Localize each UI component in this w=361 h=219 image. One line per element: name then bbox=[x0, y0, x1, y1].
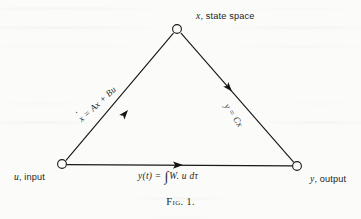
figure-caption: Fig. 1. bbox=[0, 196, 361, 207]
transfer-equation-lhs: y(t) = bbox=[138, 171, 164, 181]
edge-state-to-output bbox=[181, 33, 293, 161]
node-label-input: u, input bbox=[14, 172, 45, 182]
triangle-diagram bbox=[0, 0, 361, 219]
figure-caption-number: 1. bbox=[187, 196, 195, 207]
figure-caption-prefix: Fig. bbox=[166, 196, 183, 207]
arrowhead-input-to-state bbox=[119, 108, 130, 120]
edge-input-to-state bbox=[66, 33, 173, 160]
node-state-space bbox=[173, 25, 182, 34]
node-output bbox=[293, 162, 302, 171]
node-text-output: , output bbox=[314, 174, 346, 184]
transfer-equation-integrand: W. u dτ bbox=[169, 171, 198, 181]
node-label-output: y, output bbox=[310, 174, 346, 184]
edge-label-transfer-equation: y(t) = ∫W. u dτ bbox=[138, 170, 198, 184]
node-text-input: , input bbox=[19, 172, 45, 182]
node-input bbox=[58, 160, 67, 169]
node-text-state-space: , state space bbox=[200, 11, 254, 21]
node-label-state-space: x, state space bbox=[196, 11, 254, 21]
